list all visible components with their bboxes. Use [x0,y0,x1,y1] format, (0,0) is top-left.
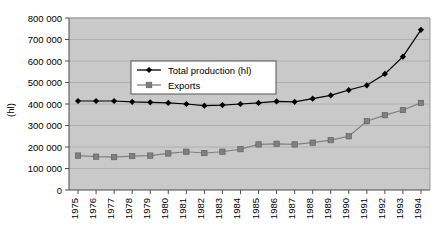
data-point [382,112,387,117]
x-axis-tick-label: 1979 [141,198,152,219]
x-axis-tick-label: 1985 [250,198,261,219]
x-axis-tick-label: 1989 [322,198,333,219]
data-point [400,107,405,112]
legend-label: Exports [168,80,200,91]
chart-container: 0100 000200 000300 000400 000500 000600 … [0,0,445,242]
x-axis-tick-label: 1993 [394,198,405,219]
y-axis-tick-label: 700 000 [28,34,62,45]
y-axis-tick-label: 100 000 [28,163,62,174]
x-axis-tick-label: 1987 [286,198,297,219]
data-point [310,140,315,145]
x-axis-tick-label: 1991 [358,198,369,219]
data-point [238,146,243,151]
y-axis-tick-label: 400 000 [28,99,62,110]
y-axis-tick-label: 300 000 [28,120,62,131]
y-axis-tick-label: 500 000 [28,77,62,88]
x-axis-tick-label: 1982 [195,198,206,219]
data-point [364,119,369,124]
data-point [346,134,351,139]
x-axis-tick-label: 1983 [213,198,224,219]
x-axis-tick-label: 1988 [304,198,315,219]
x-axis-tick-label: 1994 [412,198,423,219]
x-axis-tick-label: 1975 [69,198,80,219]
data-point [292,142,297,147]
data-point [148,153,153,158]
x-axis-ticks [78,190,421,194]
x-axis-tick-label: 1990 [340,198,351,219]
y-axis-tick-labels: 0100 000200 000300 000400 000500 000600 … [28,13,62,196]
data-point [111,154,116,159]
x-axis-tick-label: 1980 [159,198,170,219]
y-axis-tick-label: 600 000 [28,56,62,67]
data-point [418,100,423,105]
x-axis-tick-label: 1976 [87,198,98,219]
data-point [75,153,80,158]
x-axis-tick-labels: 1975197619771978197919801981198219831984… [69,198,423,219]
data-point [274,141,279,146]
data-point [166,151,171,156]
data-point [328,137,333,142]
legend-marker [146,82,152,88]
x-axis-tick-label: 1978 [123,198,134,219]
data-point [93,154,98,159]
x-axis-tick-label: 1992 [376,198,387,219]
y-axis-tick-label: 0 [57,185,62,196]
y-axis-ticks [65,18,69,190]
x-axis-tick-label: 1977 [105,198,116,219]
x-axis-tick-label: 1984 [231,198,242,219]
chart-legend: Total production (hl)Exports [131,61,276,94]
data-point [220,149,225,154]
y-axis-title: (hl) [5,103,16,117]
x-axis-tick-label: 1981 [177,198,188,219]
y-axis-tick-label: 200 000 [28,142,62,153]
data-point [184,149,189,154]
data-point [129,153,134,158]
data-point [202,150,207,155]
line-chart: 0100 000200 000300 000400 000500 000600 … [0,0,445,242]
data-point [256,142,261,147]
y-axis-title-label: (hl) [5,103,16,117]
x-axis-tick-label: 1986 [268,198,279,219]
legend-label: Total production (hl) [168,65,251,76]
y-axis-tick-label: 800 000 [28,13,62,24]
